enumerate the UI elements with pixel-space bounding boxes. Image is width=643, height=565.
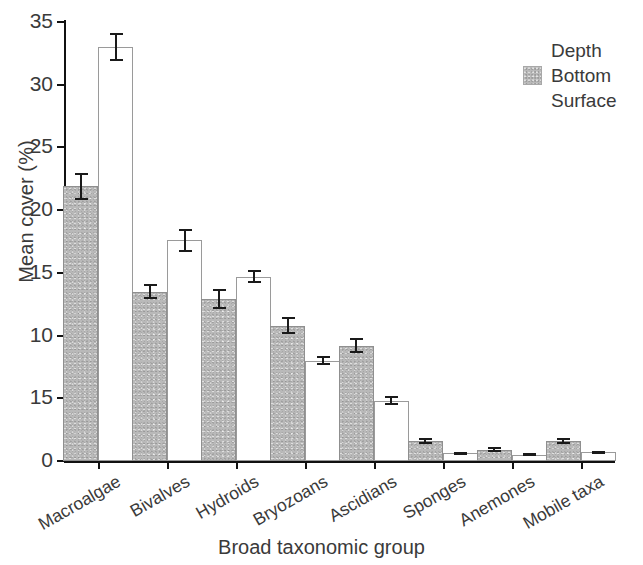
x-axis-line	[64, 461, 615, 463]
y-axis-tick: 25	[0, 147, 64, 148]
bar-surface-macroalgae	[98, 47, 133, 461]
y-axis-tick: 20	[0, 210, 64, 211]
error-bar-cap-top	[317, 356, 330, 358]
error-bar-cap-top	[557, 438, 570, 440]
bar-surface-ascidians	[374, 401, 409, 461]
error-bar-cap-bottom	[523, 454, 536, 456]
legend: Depth Bottom Surface	[523, 38, 643, 113]
error-bar-cap-bottom	[213, 307, 226, 309]
error-bar-stem	[218, 289, 220, 309]
error-bar-cap-top	[419, 438, 432, 440]
error-bar-cap-bottom	[557, 442, 570, 444]
error-bar-cap-bottom	[282, 332, 295, 334]
error-bar-cap-top	[282, 317, 295, 319]
x-tick-mark	[512, 462, 514, 469]
error-bar-cap-top	[488, 447, 501, 449]
x-category-label-bryozoans: Bryozoans	[249, 471, 331, 531]
x-tick-mark	[443, 462, 445, 469]
legend-item-surface: Surface	[523, 88, 643, 113]
y-tick-label: 30	[30, 72, 53, 96]
legend-label-bottom: Bottom	[551, 63, 611, 88]
y-tick-label: 25	[30, 134, 53, 158]
error-bar-cap-top	[179, 229, 192, 231]
error-bar-cap-top	[248, 270, 261, 272]
legend-item-bottom: Bottom	[523, 63, 643, 88]
x-tick-mark	[581, 462, 583, 469]
bar-bottom-ascidians	[339, 346, 374, 461]
legend-swatch-bottom-icon	[523, 66, 542, 85]
y-tick-label: 0	[41, 448, 53, 472]
bar-surface-bryozoans	[305, 361, 340, 461]
x-category-label-bivalves: Bivalves	[127, 471, 194, 522]
error-bar-cap-bottom	[110, 59, 123, 61]
x-category-label-ascidians: Ascidians	[325, 471, 400, 527]
y-tick-label: 15	[30, 260, 53, 284]
error-bar-cap-bottom	[454, 453, 467, 455]
error-bar-cap-top	[75, 173, 88, 175]
bar-bottom-macroalgae	[63, 186, 98, 461]
error-bar-cap-top	[385, 396, 398, 398]
y-axis-tick: 15	[0, 398, 64, 399]
x-category-label-macroalgae: Macroalgae	[35, 471, 125, 535]
y-axis-tick: 35	[0, 22, 64, 23]
error-bar-cap-top	[213, 289, 226, 291]
y-axis-tick: 0	[0, 461, 64, 462]
y-tick-label: 35	[30, 9, 53, 33]
y-tick-label: 15	[30, 385, 53, 409]
bar-bottom-bivalves	[132, 292, 167, 461]
legend-title: Depth	[551, 38, 643, 63]
error-bar-cap-bottom	[179, 250, 192, 252]
bar-surface-bivalves	[167, 240, 202, 461]
error-bar-cap-bottom	[317, 363, 330, 365]
x-tick-mark	[98, 462, 100, 469]
bar-bottom-bryozoans	[270, 326, 305, 461]
y-tick-label: 20	[30, 197, 53, 221]
error-bar-cap-top	[110, 33, 123, 35]
bar-surface-hydroids	[236, 277, 271, 461]
error-bar-cap-bottom	[419, 442, 432, 444]
error-bar-cap-bottom	[592, 452, 605, 454]
error-bar-stem	[80, 173, 82, 201]
y-tick-label: 10	[30, 323, 53, 347]
error-bar-cap-bottom	[144, 297, 157, 299]
error-bar-stem	[184, 229, 186, 252]
y-axis-tick: 15	[0, 273, 64, 274]
error-bar-cap-bottom	[385, 403, 398, 405]
error-bar-cap-bottom	[75, 198, 88, 200]
error-bar-cap-top	[144, 284, 157, 286]
error-bar-cap-top	[350, 338, 363, 340]
x-axis-title: Broad taxonomic group	[0, 536, 643, 559]
x-tick-mark	[236, 462, 238, 469]
bar-bottom-hydroids	[201, 299, 236, 461]
y-axis-tick: 30	[0, 85, 64, 86]
error-bar-stem	[115, 33, 117, 61]
error-bar-cap-bottom	[350, 351, 363, 353]
legend-label-surface: Surface	[551, 88, 616, 113]
legend-swatch-surface-icon	[523, 91, 542, 110]
x-tick-mark	[305, 462, 307, 469]
y-tick-mark	[57, 84, 64, 86]
y-axis-tick: 10	[0, 336, 64, 337]
bar-chart-figure: Mean cover (%) 353025201510150 Macroalga…	[0, 0, 643, 565]
x-tick-mark	[167, 462, 169, 469]
error-bar-cap-bottom	[488, 450, 501, 452]
y-tick-mark	[57, 21, 64, 23]
x-tick-mark	[374, 462, 376, 469]
error-bar-cap-bottom	[248, 281, 261, 283]
y-tick-mark	[57, 146, 64, 148]
